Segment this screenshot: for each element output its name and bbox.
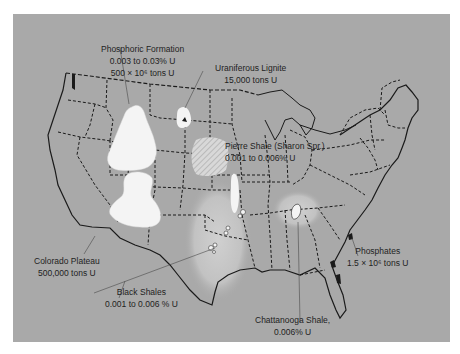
phosphoric-formation-label: Phosphoric Formation 0.003 to 0.03% U 50… xyxy=(101,43,184,79)
pierre-shale-region xyxy=(192,137,229,176)
phosphoric-formation-name: Phosphoric Formation xyxy=(101,43,184,55)
map-frame: Phosphoric Formation 0.003 to 0.03% U 50… xyxy=(13,14,450,342)
pierre-shale-grade: 0.001 to 0.006% U xyxy=(225,152,325,164)
pierre-shale-label: Pierre Shale (Sharon Spr.) 0.001 to 0.00… xyxy=(225,140,325,164)
kansas-strip-region xyxy=(231,174,239,213)
chattanooga-shale-name: Chattanooga Shale, xyxy=(255,314,330,326)
colorado-plateau-name: Colorado Plateau xyxy=(34,255,100,267)
phosphates-label: Phosphates 1.5 × 10⁶ tons U xyxy=(347,245,408,269)
chattanooga-shale-grade: 0.006% U xyxy=(255,326,330,338)
black-shales-grade: 0.001 to 0.006 % U xyxy=(105,298,178,310)
black-shales-name: Black Shales xyxy=(105,286,178,298)
uraniferous-lignite-region xyxy=(177,107,192,128)
uraniferous-lignite-tonnage: 15,000 tons U xyxy=(215,74,286,86)
pierre-shale-name: Pierre Shale (Sharon Spr.) xyxy=(225,140,325,152)
phosphates-name: Phosphates xyxy=(347,245,408,257)
puget-sound xyxy=(72,74,75,90)
chattanooga-shale-label: Chattanooga Shale, 0.006% U xyxy=(255,314,330,338)
phosphoric-formation-grade: 0.003 to 0.03% U xyxy=(101,55,184,67)
uraniferous-lignite-label: Uraniferous Lignite 15,000 tons U xyxy=(215,62,286,86)
phosphoric-formation-tonnage: 500 × 10⁶ tons U xyxy=(101,67,184,79)
phosphoric-formation-region xyxy=(108,105,157,170)
uraniferous-lignite-name: Uraniferous Lignite xyxy=(215,62,286,74)
colorado-plateau-tonnage: 500,000 tons U xyxy=(34,267,100,279)
phosphates-tonnage: 1.5 × 10⁶ tons U xyxy=(347,257,408,269)
colorado-plateau-label: Colorado Plateau 500,000 tons U xyxy=(34,255,100,279)
black-shales-label: Black Shales 0.001 to 0.006 % U xyxy=(105,286,178,310)
colorado-plateau-region xyxy=(110,172,161,227)
